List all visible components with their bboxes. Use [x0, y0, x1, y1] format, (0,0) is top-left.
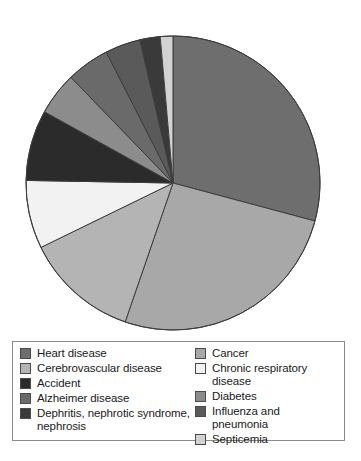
legend-color-swatch [195, 363, 206, 374]
legend-columns: Heart diseaseCerebrovascular diseaseAcci… [20, 347, 338, 436]
legend-item-label: Cancer [212, 347, 248, 360]
legend-color-swatch [20, 378, 31, 389]
legend-item[interactable]: Heart disease [20, 347, 195, 360]
legend-item[interactable]: Cerebrovascular disease [20, 362, 195, 375]
legend-color-swatch [20, 408, 31, 419]
legend-item-label: Dephritis, nephrotic syndrome, nephrosis [37, 407, 190, 433]
legend-item[interactable]: Alzheimer disease [20, 392, 195, 405]
legend-color-swatch [195, 406, 206, 417]
legend-item-label: Accident [37, 377, 80, 390]
legend-column-right: CancerChronic respiratory diseaseDiabete… [195, 347, 338, 436]
legend-item-label: Heart disease [37, 347, 107, 360]
legend-column-left: Heart diseaseCerebrovascular diseaseAcci… [20, 347, 195, 436]
legend-color-swatch [20, 393, 31, 404]
legend-item-label: Alzheimer disease [37, 392, 129, 405]
legend-color-swatch [20, 348, 31, 359]
legend-item[interactable]: Chronic respiratory disease [195, 362, 338, 388]
pie-chart-svg [0, 0, 361, 336]
legend-item[interactable]: Diabetes [195, 390, 338, 403]
legend-color-swatch [195, 348, 206, 359]
legend-item[interactable]: Septicemia [195, 433, 338, 446]
pie-chart-area [0, 0, 361, 336]
chart-legend: Heart diseaseCerebrovascular diseaseAcci… [12, 341, 345, 441]
legend-item[interactable]: Influenza and pneumonia [195, 405, 338, 431]
legend-item-label: Chronic respiratory disease [212, 362, 338, 388]
legend-item[interactable]: Accident [20, 377, 195, 390]
legend-color-swatch [20, 363, 31, 374]
legend-item-label: Influenza and pneumonia [212, 405, 338, 431]
legend-item-label: Diabetes [212, 390, 257, 403]
legend-item-label: Cerebrovascular disease [37, 362, 162, 375]
legend-color-swatch [195, 391, 206, 402]
legend-item-label: Septicemia [212, 433, 268, 446]
legend-color-swatch [195, 434, 206, 445]
legend-item[interactable]: Cancer [195, 347, 338, 360]
legend-item[interactable]: Dephritis, nephrotic syndrome, nephrosis [20, 407, 195, 433]
